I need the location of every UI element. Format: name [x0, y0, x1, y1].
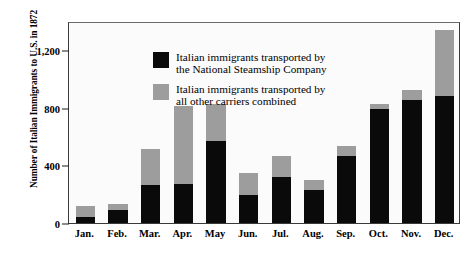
x-tick-label: May — [205, 228, 225, 239]
x-tick-label: Dec. — [434, 228, 454, 239]
bar-segment-national-steamship[interactable] — [370, 109, 390, 223]
bar-segment-national-steamship[interactable] — [174, 184, 194, 223]
bar-segment-national-steamship[interactable] — [402, 100, 422, 223]
legend-label-other-carriers: Italian immigrants transported by all ot… — [176, 83, 325, 108]
legend-item-other-carriers: Italian immigrants transported by all ot… — [153, 83, 413, 108]
x-tick-label: Jun. — [238, 228, 258, 239]
y-tick-mark — [62, 50, 69, 51]
y-tick-mark — [62, 224, 69, 225]
bar-group[interactable] — [370, 104, 390, 223]
x-tick-label: Mar. — [139, 228, 160, 239]
bar-segment-national-steamship[interactable] — [206, 141, 226, 223]
legend-swatch-black-icon — [153, 52, 169, 68]
bar-segment-other-carriers[interactable] — [174, 106, 194, 184]
bar-group[interactable] — [272, 156, 292, 223]
bar-segment-other-carriers[interactable] — [141, 149, 161, 185]
x-tick-label: Jul. — [272, 228, 289, 239]
bar-segment-national-steamship[interactable] — [337, 156, 357, 223]
x-tick-label: Nov. — [401, 228, 421, 239]
bar-group[interactable] — [206, 104, 226, 223]
bar-segment-national-steamship[interactable] — [435, 96, 455, 223]
x-tick-label: Feb. — [107, 228, 127, 239]
bar-segment-national-steamship[interactable] — [239, 195, 259, 223]
bar-group[interactable] — [76, 206, 96, 223]
bar-group[interactable] — [435, 30, 455, 223]
x-tick-label: Jan. — [75, 228, 94, 239]
bar-group[interactable] — [337, 146, 357, 223]
bar-segment-national-steamship[interactable] — [141, 185, 161, 223]
x-tick-label: Oct. — [369, 228, 388, 239]
bar-group[interactable] — [141, 149, 161, 223]
x-axis-tick-labels: Jan.Feb.Mar.Apr.MayJun.Jul.Aug.Sep.Oct.N… — [68, 228, 460, 250]
y-tick-mark — [62, 166, 69, 167]
x-tick-label: Sep. — [336, 228, 355, 239]
bar-segment-other-carriers[interactable] — [304, 180, 324, 190]
bar-group[interactable] — [174, 106, 194, 223]
bar-group[interactable] — [239, 173, 259, 224]
bar-group[interactable] — [304, 180, 324, 223]
legend-label-national-steamship: Italian immigrants transported by the Na… — [176, 51, 327, 76]
y-axis-tick-labels: 04008001,200 — [18, 0, 60, 263]
bar-segment-national-steamship[interactable] — [108, 210, 128, 223]
x-tick-label: Aug. — [302, 228, 323, 239]
y-tick-label: 0 — [20, 219, 60, 230]
bar-segment-other-carriers[interactable] — [435, 30, 455, 96]
bar-segment-other-carriers[interactable] — [272, 156, 292, 177]
plot-area: Italian immigrants transported by the Na… — [68, 22, 460, 224]
bar-segment-other-carriers[interactable] — [76, 206, 96, 217]
bar-segment-national-steamship[interactable] — [272, 177, 292, 223]
chart-legend: Italian immigrants transported by the Na… — [153, 51, 413, 115]
legend-item-national-steamship: Italian immigrants transported by the Na… — [153, 51, 413, 76]
y-tick-label: 1,200 — [20, 45, 60, 56]
y-tick-label: 800 — [20, 103, 60, 114]
bar-segment-national-steamship[interactable] — [304, 190, 324, 223]
bar-segment-other-carriers[interactable] — [337, 146, 357, 156]
bar-segment-other-carriers[interactable] — [239, 173, 259, 195]
y-tick-label: 400 — [20, 161, 60, 172]
bar-segment-national-steamship[interactable] — [76, 217, 96, 223]
bar-chart-figure: Number of Italian Immigrants to U.S. in … — [0, 0, 469, 263]
x-tick-label: Apr. — [172, 228, 192, 239]
legend-swatch-gray-icon — [153, 84, 169, 100]
bar-group[interactable] — [108, 204, 128, 223]
y-tick-mark — [62, 108, 69, 109]
